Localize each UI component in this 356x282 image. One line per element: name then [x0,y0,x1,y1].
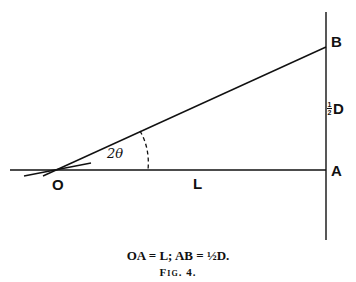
line-OB [43,47,326,176]
caption-figure-number: Fig. 4. [0,266,356,278]
label-half-D: 1 2 D [327,100,344,117]
label-B: B [331,34,342,49]
label-L: L [193,176,202,191]
label-D: D [333,100,344,117]
angle-arc [140,131,148,170]
label-angle-2theta: 2θ [107,146,123,161]
fraction-denominator: 2 [328,109,332,116]
caption-equation: OA = L; AB = ½D. [0,248,356,264]
geometry-diagram [0,0,356,282]
label-O: O [52,177,64,192]
fraction-numerator: 1 [328,101,332,108]
label-A: A [331,163,342,178]
fraction-one-half: 1 2 [327,101,332,116]
